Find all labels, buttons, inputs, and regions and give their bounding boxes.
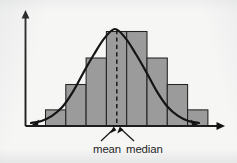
median-label: median (126, 143, 163, 155)
distribution-figure: mean median (0, 0, 237, 163)
statistics-figure-screenshot: mean median (0, 0, 237, 163)
y-axis-arrowhead (22, 10, 30, 19)
table-row (86, 58, 106, 126)
histogram-bars (46, 32, 208, 127)
mean-arrowhead (110, 127, 116, 134)
x-axis-arrowhead (217, 122, 226, 130)
median-arrowhead (117, 127, 123, 134)
mean-label: mean (93, 143, 121, 155)
table-row (66, 85, 86, 126)
